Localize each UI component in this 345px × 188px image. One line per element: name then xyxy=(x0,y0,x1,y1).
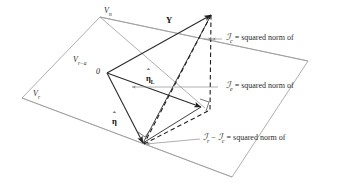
vector-label-y: Y xyxy=(166,16,172,25)
origin-label: 0 xyxy=(96,68,100,76)
annotation-sum-of-squares-difference: ℐr − ℐc = squared norm of xyxy=(203,133,285,144)
plane-label-vr: Vr xyxy=(33,90,40,100)
vector-label-eta-hat-L: ˆ η L xyxy=(146,74,155,85)
vector-decomposition-figure: Vn Vr−a Vr 0 Y ˆ η L ˆ η ℐc = squared no… xyxy=(0,0,345,188)
vector-group-solid xyxy=(107,15,211,143)
dashed-bottom-to-foot xyxy=(144,110,210,144)
annotation-c-text: = squared norm of xyxy=(235,33,294,42)
annotation-minus-sign: − xyxy=(211,133,216,142)
plane-label-vn: Vn xyxy=(104,7,112,17)
hat-accent-L: ˆ xyxy=(146,69,151,77)
annotation-diff-text: = squared norm of xyxy=(227,133,286,142)
segment-bottom-to-foot xyxy=(143,107,201,143)
figure-canvas xyxy=(0,0,345,188)
inner-plane-edge xyxy=(22,17,232,177)
annotation-sum-of-squares-e: ℐe = squared norm of xyxy=(226,81,294,92)
hat-accent: ˆ xyxy=(112,112,117,120)
leader-diff xyxy=(146,139,200,144)
plane-label-vra: Vr−a xyxy=(73,56,87,66)
annotation-e-text: = squared norm of xyxy=(235,81,294,90)
vector-label-eta-hat: ˆ η xyxy=(112,117,117,126)
annotation-leaders xyxy=(132,39,222,144)
dashed-apex-vertical xyxy=(210,15,211,110)
annotation-sum-of-squares-c: ℐc = squared norm of xyxy=(226,33,294,44)
right-angle-markers xyxy=(138,99,209,137)
